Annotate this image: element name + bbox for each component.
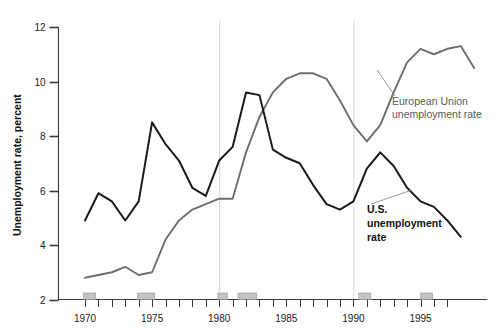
recession-band-3 bbox=[238, 293, 257, 300]
x-tick-label-1985: 1985 bbox=[275, 313, 298, 324]
y-tick-label-6: 6 bbox=[40, 186, 46, 197]
y-tick-label-4: 4 bbox=[40, 240, 46, 251]
x-tick-label-1975: 1975 bbox=[141, 313, 164, 324]
y-tick-label-2: 2 bbox=[40, 295, 46, 306]
us-annotation-line-3: rate bbox=[367, 231, 386, 243]
us-annotation-line-1: U.S. bbox=[367, 203, 388, 215]
eu-annotation-line-1: European Union bbox=[392, 95, 468, 107]
x-tick-label-1990: 1990 bbox=[342, 313, 365, 324]
x-tick-label-1980: 1980 bbox=[208, 313, 231, 324]
x-tick-label-1970: 1970 bbox=[74, 313, 97, 324]
recession-band-0 bbox=[84, 293, 96, 300]
us-annotation-line-2: unemployment bbox=[367, 217, 442, 229]
y-axis-title: Unemployment rate, percent bbox=[11, 94, 23, 236]
x-tick-label-1995: 1995 bbox=[409, 313, 432, 324]
chart-background bbox=[0, 0, 504, 335]
recession-band-5 bbox=[421, 293, 433, 300]
y-tick-label-12: 12 bbox=[34, 22, 46, 33]
unemployment-rate-chart: 24681012 Unemployment rate, percent 1970… bbox=[0, 0, 504, 335]
y-tick-label-8: 8 bbox=[40, 131, 46, 142]
chart-canvas: 24681012 Unemployment rate, percent 1970… bbox=[0, 0, 504, 335]
y-tick-label-10: 10 bbox=[34, 77, 46, 88]
recession-band-1 bbox=[137, 293, 154, 300]
eu-annotation-line-2: unemployment rate bbox=[392, 108, 482, 120]
recession-band-4 bbox=[359, 293, 371, 300]
recession-band-2 bbox=[218, 293, 227, 300]
